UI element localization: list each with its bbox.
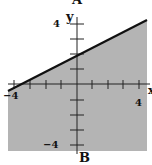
y-max-tick-label: 4 [53, 18, 60, 29]
x-min-tick-label: −4 [3, 90, 18, 101]
panel-label-bottom: B [79, 150, 90, 165]
y-axis-label: y [66, 9, 74, 24]
y-min-tick-label: −4 [43, 139, 58, 150]
x-max-tick-label: 4 [135, 97, 142, 108]
x-axis-label: x [148, 84, 152, 97]
inequality-graph [0, 0, 152, 165]
